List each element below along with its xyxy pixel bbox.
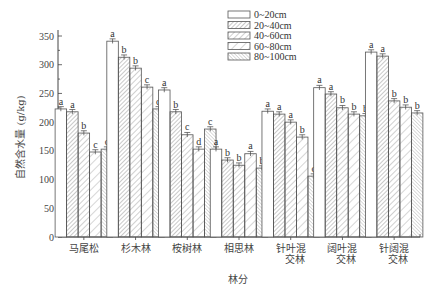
significance-letter: b (122, 44, 127, 55)
significance-letter: b (81, 120, 86, 131)
bar (141, 87, 153, 237)
significance-letter: a (162, 77, 167, 88)
legend-swatch (228, 32, 250, 39)
x-category-label: 交林 (336, 253, 356, 265)
y-axis-title-text: 自然含水量 (g/kg) (14, 95, 26, 178)
legend-label: 20~40cm (254, 20, 292, 31)
bar (365, 52, 377, 237)
significance-letter: b (133, 55, 138, 66)
bar (222, 160, 234, 237)
significance-letter: c (93, 139, 98, 150)
significance-letter: a (70, 99, 75, 110)
bar (285, 122, 297, 237)
x-category-label: 针叶混 (276, 242, 306, 254)
bar (182, 135, 194, 237)
bar (388, 101, 400, 237)
x-category-label: 马尾松 (69, 242, 99, 254)
bar (377, 56, 389, 237)
bar (400, 107, 412, 237)
legend-label: 40~60cm (254, 30, 292, 41)
bar (90, 152, 102, 237)
significance-letter: a (329, 81, 334, 92)
bar-group: aaabc (262, 98, 320, 237)
bar (193, 149, 205, 237)
x-axis-title: 林分 (228, 273, 248, 285)
bar (411, 113, 423, 237)
significance-letter: a (380, 43, 385, 54)
y-tick-label: 50 (44, 203, 54, 214)
x-category-label: 相思林 (224, 242, 254, 254)
legend-label: 60~80cm (254, 41, 292, 52)
bar (348, 114, 360, 237)
legend-label: 0~20cm (254, 9, 287, 20)
y-axis-title: 自然含水量 (g/kg) (14, 95, 26, 178)
x-category-label: 交林 (285, 253, 305, 265)
y-tick-label: 300 (39, 59, 54, 70)
significance-letter: d (196, 136, 201, 147)
y-tick-label: 350 (39, 31, 54, 42)
y-tick-label: 0 (49, 232, 54, 243)
significance-letter: a (288, 109, 293, 120)
bar (55, 109, 67, 237)
significance-letter: b (340, 94, 345, 105)
x-category-label: 杉木林 (121, 242, 151, 254)
significance-letter: b (403, 94, 408, 105)
legend-swatch (228, 43, 250, 50)
bar (67, 112, 79, 237)
legend-swatch (228, 53, 250, 60)
legend-item: 20~40cm (228, 20, 292, 31)
bar (170, 112, 182, 237)
legend-swatch (228, 11, 250, 18)
significance-letter: a (277, 101, 282, 112)
category-labels: 马尾松杉木林桉树林相思林针叶混交林阔叶混交林针阔混交林 (69, 242, 409, 265)
x-category-label: 针阔混 (379, 242, 409, 254)
bar (210, 149, 222, 237)
bar (337, 108, 349, 237)
significance-letter: c (145, 74, 150, 85)
significance-letter: a (265, 98, 270, 109)
significance-letter: b (173, 99, 178, 110)
significance-letter: a (110, 28, 115, 39)
significance-letter: a (317, 74, 322, 85)
significance-letter: b (392, 88, 397, 99)
legend-label: 80~100cm (254, 51, 297, 62)
bar (118, 57, 130, 237)
bar-group: aabcc (55, 96, 112, 237)
bar (78, 133, 90, 237)
bar-group: abcdc (159, 77, 217, 237)
bar-group: abbcd (107, 28, 165, 237)
y-tick-label: 150 (39, 145, 54, 156)
bar (159, 90, 171, 237)
significance-letter: b (300, 124, 305, 135)
x-category-label: 交林 (388, 253, 408, 265)
significance-letter: b (415, 100, 420, 111)
bar (107, 41, 119, 237)
significance-letter: a (369, 39, 374, 50)
significance-letter: a (214, 136, 219, 147)
bar (245, 154, 257, 237)
bar (296, 137, 308, 237)
significance-letter: b (237, 152, 242, 163)
bar (262, 111, 274, 237)
y-tick-label: 200 (39, 117, 54, 128)
bar-group: abbab (210, 136, 268, 237)
significance-letter: b (225, 147, 230, 158)
legend-item: 60~80cm (228, 41, 292, 52)
bar (314, 88, 326, 237)
bar (325, 94, 337, 237)
x-category-label: 桉树林 (172, 242, 202, 254)
significance-letter: c (208, 116, 213, 127)
x-category-label: 阔叶混 (327, 242, 357, 254)
bar (273, 114, 285, 237)
legend-item: 0~20cm (228, 9, 287, 20)
legend: 0~20cm20~40cm40~60cm60~80cm80~100cm (228, 9, 297, 62)
bar (233, 165, 245, 237)
significance-letter: c (185, 121, 190, 132)
y-tick-label: 100 (39, 174, 54, 185)
legend-item: 80~100cm (228, 51, 297, 62)
x-axis-title-text: 林分 (228, 273, 248, 285)
legend-item: 40~60cm (228, 30, 292, 41)
y-tick-label: 250 (39, 88, 54, 99)
legend-swatch (228, 22, 250, 29)
bar-chart: 自然含水量 (g/kg) 050100150200250300350 aabcc… (0, 0, 438, 293)
